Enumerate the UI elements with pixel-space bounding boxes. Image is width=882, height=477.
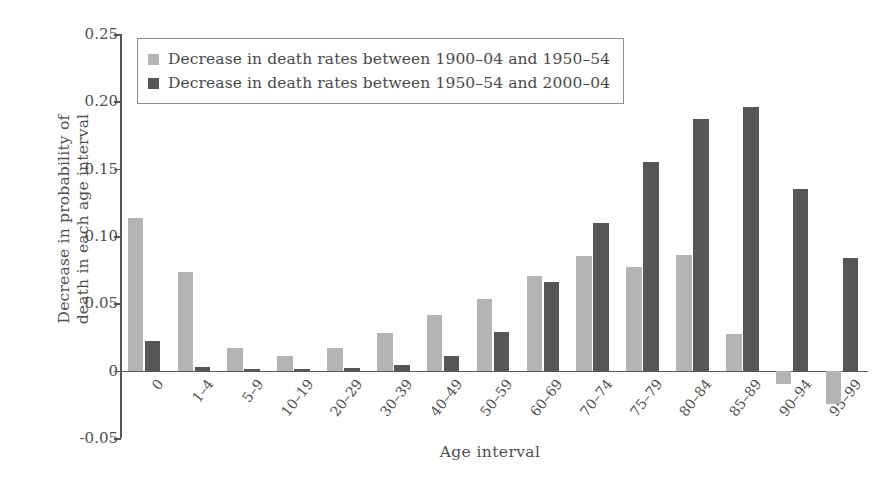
bar-dark bbox=[593, 223, 609, 371]
x-tick-label: 75–79 bbox=[626, 376, 665, 419]
x-tick-label: 0 bbox=[148, 376, 166, 393]
x-axis-title: Age interval bbox=[120, 443, 860, 461]
bar-dark bbox=[544, 282, 560, 371]
legend-swatch-icon bbox=[148, 54, 159, 65]
bar-light bbox=[527, 276, 543, 370]
y-tick-label: 0.10 bbox=[48, 227, 118, 245]
bar-dark bbox=[145, 341, 161, 371]
bar-light bbox=[477, 299, 493, 370]
bar-light bbox=[128, 218, 144, 370]
x-tick-label: 50–59 bbox=[477, 376, 516, 419]
y-tick-label: -0.05 bbox=[48, 429, 118, 447]
legend-swatch-icon bbox=[148, 78, 159, 89]
legend-label: Decrease in death rates between 1950–54 … bbox=[168, 74, 610, 92]
bar-dark bbox=[294, 369, 310, 370]
y-tick-label: 0.15 bbox=[48, 160, 118, 178]
bar-light bbox=[776, 371, 792, 384]
bar-light bbox=[227, 348, 243, 371]
x-tick-label: 80–84 bbox=[676, 376, 715, 419]
x-tick-label: 40–49 bbox=[427, 376, 466, 419]
legend-label: Decrease in death rates between 1900–04 … bbox=[168, 50, 610, 68]
x-tick-label: 85–89 bbox=[726, 376, 765, 419]
bar-light bbox=[576, 256, 592, 370]
bar-light bbox=[377, 333, 393, 371]
chart-figure: Decrease in probability of death in each… bbox=[0, 0, 882, 477]
bar-dark bbox=[494, 332, 510, 371]
legend-item: Decrease in death rates between 1900–04 … bbox=[148, 47, 610, 71]
bar-dark bbox=[693, 119, 709, 371]
bar-dark bbox=[793, 189, 809, 371]
x-tick-label: 60–69 bbox=[527, 376, 566, 419]
bar-dark bbox=[444, 356, 460, 371]
bar-dark bbox=[394, 365, 410, 370]
x-tick-label: 5–9 bbox=[238, 376, 266, 405]
x-tick-label: 30–39 bbox=[377, 376, 416, 419]
y-tick-label: 0.05 bbox=[48, 294, 118, 312]
y-tick-label: 0.20 bbox=[48, 92, 118, 110]
bar-light bbox=[676, 255, 692, 371]
bar-dark bbox=[843, 258, 859, 371]
bar-light bbox=[427, 315, 443, 370]
x-tick-label: 10–19 bbox=[277, 376, 316, 419]
legend-item: Decrease in death rates between 1950–54 … bbox=[148, 71, 610, 95]
y-tick-label: 0 bbox=[48, 362, 118, 380]
y-tick-label: 0.25 bbox=[48, 25, 118, 43]
x-tick-label: 70–74 bbox=[576, 376, 615, 419]
x-tick-label: 1–4 bbox=[189, 376, 217, 405]
bar-light bbox=[726, 334, 742, 370]
bar-dark bbox=[643, 162, 659, 371]
bar-dark bbox=[195, 367, 211, 371]
bar-light bbox=[327, 348, 343, 371]
bar-dark bbox=[743, 107, 759, 371]
bar-light bbox=[178, 272, 194, 370]
bar-dark bbox=[344, 368, 360, 371]
bar-light bbox=[277, 356, 293, 371]
chart-legend: Decrease in death rates between 1900–04 … bbox=[137, 38, 624, 104]
bar-light bbox=[826, 371, 842, 405]
x-axis-line bbox=[120, 371, 868, 373]
bar-light bbox=[626, 267, 642, 371]
plot-area: 0.250.200.150.100.050-0.05 01–45–910–192… bbox=[120, 30, 870, 442]
x-tick-label: 20–29 bbox=[327, 376, 366, 419]
bar-dark bbox=[244, 369, 260, 370]
